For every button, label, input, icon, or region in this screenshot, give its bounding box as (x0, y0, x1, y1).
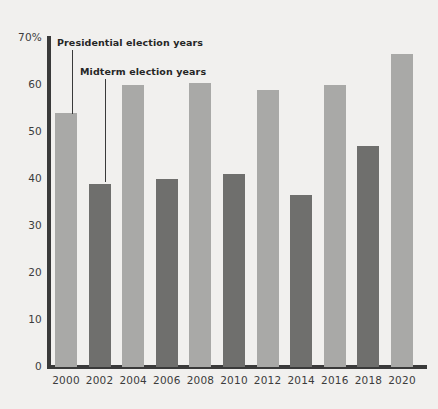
annotation-leader-line-1 (72, 50, 73, 114)
bar-2006 (156, 179, 178, 367)
bar-2002 (89, 184, 111, 367)
bar-2004 (122, 85, 144, 367)
x-axis-tick-labels: 2000200220042006200820102012201420162018… (0, 374, 438, 398)
bar-2000 (55, 113, 77, 367)
annotation-leader-line-2 (105, 79, 106, 182)
bar-2020 (391, 54, 413, 367)
bar-2010 (223, 174, 245, 367)
bar-2018 (357, 146, 379, 367)
x-axis-tick-label: 2002 (84, 374, 116, 386)
x-axis-tick-label: 2012 (252, 374, 284, 386)
bar-2014 (290, 195, 312, 367)
x-axis-tick-label: 2004 (117, 374, 149, 386)
x-axis-tick-label: 2018 (352, 374, 384, 386)
annotation-label-2: Midterm election years (80, 66, 206, 77)
bar-2008 (189, 83, 211, 367)
bar-2012 (257, 90, 279, 367)
bar-2016 (324, 85, 346, 367)
x-axis-tick-label: 2020 (386, 374, 418, 386)
x-axis-tick-label: 2016 (319, 374, 351, 386)
x-axis-tick-label: 2010 (218, 374, 250, 386)
x-axis-tick-label: 2008 (184, 374, 216, 386)
annotation-label-1: Presidential election years (57, 37, 203, 48)
x-axis-tick-label: 2000 (50, 374, 82, 386)
x-axis-tick-label: 2006 (151, 374, 183, 386)
bars-layer (0, 0, 438, 409)
x-axis-tick-label: 2014 (285, 374, 317, 386)
bar-chart: 010203040506070% Presidential election y… (0, 0, 438, 409)
